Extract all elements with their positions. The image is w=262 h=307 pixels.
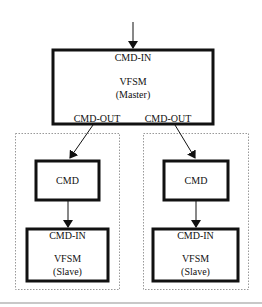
master-output-port-left: CMD-OUT [74, 113, 121, 124]
master-subtitle: (Master) [116, 89, 150, 101]
vfsm-diagram: CMD-IN VFSM (Master) CMD-OUT CMD-OUT CMD… [0, 0, 262, 307]
slave-title-right: VFSM [182, 253, 209, 264]
slave-title-left: VFSM [54, 253, 81, 264]
slave-input-port-left: CMD-IN [49, 230, 86, 241]
master-title: VFSM [119, 76, 146, 87]
slave-subtitle-left: (Slave) [53, 266, 82, 278]
arrow-master-to-cmd-right [175, 125, 195, 158]
slave-subtitle-right: (Slave) [181, 266, 210, 278]
master-input-port: CMD-IN [115, 52, 152, 63]
slave-input-port-right: CMD-IN [177, 230, 214, 241]
arrow-master-to-cmd-left [70, 125, 93, 158]
cmd-label-left: CMD [56, 175, 79, 186]
cmd-label-right: CMD [185, 175, 208, 186]
master-output-port-right: CMD-OUT [145, 113, 192, 124]
